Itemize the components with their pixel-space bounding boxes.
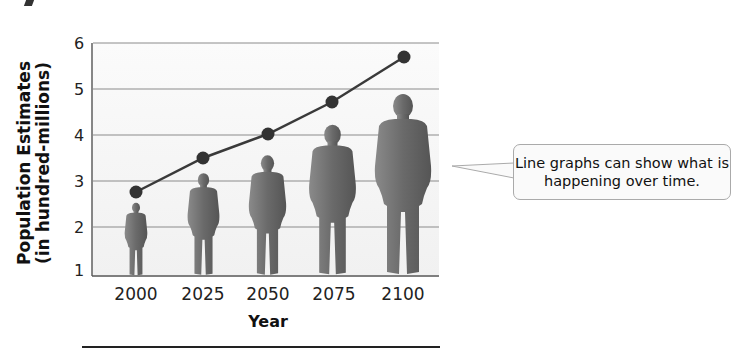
x-tick-2075: 2075	[312, 284, 355, 304]
x-axis-title: Year	[248, 312, 288, 331]
x-tick-2000: 2000	[114, 284, 157, 304]
data-point-2000	[130, 186, 143, 199]
x-tick-2100: 2100	[381, 284, 424, 304]
callout-text: Line graphs can show what is happening o…	[514, 154, 730, 190]
x-tick-2025: 2025	[181, 284, 224, 304]
data-point-2075	[326, 96, 339, 109]
bottom-rule-divider	[82, 346, 440, 348]
data-point-2100	[398, 51, 411, 64]
data-point-2025	[197, 152, 210, 165]
x-tick-2050: 2050	[246, 284, 289, 304]
callout-annotation: Line graphs can show what is happening o…	[513, 144, 731, 200]
data-point-2050	[262, 128, 275, 141]
callout-pointer	[448, 158, 518, 184]
